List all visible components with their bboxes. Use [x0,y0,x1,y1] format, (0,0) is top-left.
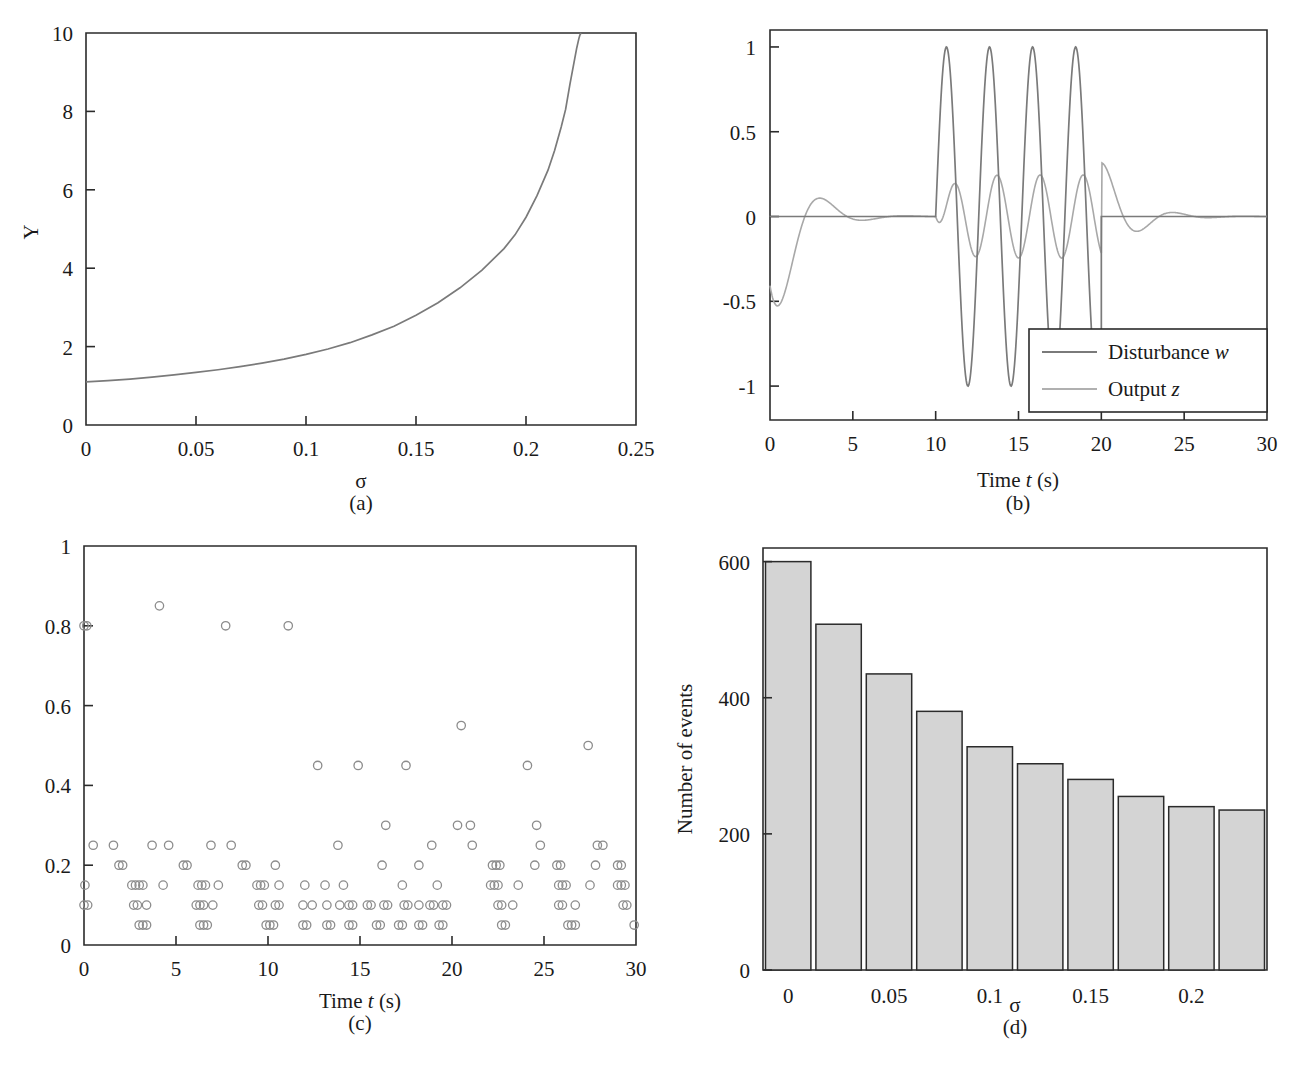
panel-b-legend-label-output: Output z [1108,377,1180,401]
panel-b-x-tick-label: 15 [1008,432,1029,456]
panel-d-x-tick-label: 0.05 [871,984,908,1008]
panel-b-y-tick-label: 0 [746,206,757,230]
bar [1219,810,1264,970]
panel-c-x-tick-label: 0 [79,957,90,981]
scatter-point [584,741,592,749]
panel-a-x-tick-label: 0.1 [293,437,319,461]
scatter-point [532,821,540,829]
panel-b-x-tick-label: 25 [1174,432,1195,456]
panel-c-y-tick-labels: 00.20.40.60.81 [45,535,72,958]
bar [866,674,911,970]
panel-b-legend-label-disturbance: Disturbance w [1108,340,1229,364]
scatter-point [207,841,215,849]
panel-a-x-tick-label: 0.2 [513,437,539,461]
panel-c-chart: 00.20.40.60.81 051015202530 Time t (s) [0,500,660,1020]
panel-c-y-tick-label: 0.6 [45,695,71,719]
panel-a-y-tick-label: 6 [63,179,74,203]
panel-b-legend: Disturbance w Output z [1029,329,1267,412]
panel-c-y-tick-label: 1 [61,535,72,559]
panel-a-x-tick-label: 0 [81,437,92,461]
scatter-point [148,841,156,849]
panel-d-x-tick-label: 0 [783,984,794,1008]
panel-d-y-tick-label: 200 [719,823,751,847]
scatter-point [339,881,347,889]
scatter-point [468,841,476,849]
panel-a-y-tick-labels: 0246810 [52,22,74,438]
panel-b-x-tick-labels: 051015202530 [765,432,1278,456]
scatter-point [402,761,410,769]
bar [1068,779,1113,970]
scatter-point [509,901,517,909]
panel-c-y-tick-label: 0.8 [45,615,71,639]
panel-b-x-tick-label: 5 [848,432,859,456]
panel-b-y-tick-label: 1 [746,36,757,60]
scatter-point [301,881,309,889]
scatter-point [536,841,544,849]
panel-c-y-tick-label: 0 [61,934,72,958]
scatter-point [354,761,362,769]
panel-c-y-tick-label: 0.2 [45,854,71,878]
panel-b-y-tick-labels: -1-0.500.51 [723,36,756,399]
scatter-point [630,921,638,929]
scatter-point [323,901,331,909]
scatter-point [308,901,316,909]
panel-a-x-tick-labels: 00.050.10.150.20.25 [81,437,655,461]
panel-a-y-tick-label: 2 [63,336,74,360]
bar [816,624,861,970]
bar [967,747,1012,970]
panel-c-y-ticks [84,626,93,865]
panel-c-scatter-points [80,602,639,930]
panel-a-x-tick-label: 0.25 [618,437,655,461]
scatter-point [221,622,229,630]
panel-a-y-axis-label: Y [19,224,43,239]
panel-c-x-tick-label: 10 [258,957,279,981]
bar [766,562,811,970]
scatter-point [531,861,539,869]
scatter-point [382,821,390,829]
panel-d-y-tick-labels: 0200400600 [719,551,751,983]
panel-c-x-ticks [176,936,544,945]
panel-a: 0246810 00.050.10.150.20.25 Y σ [0,0,660,500]
panel-b-y-tick-label: -0.5 [723,290,756,314]
panel-d-y-axis-label: Number of events [673,684,697,834]
panel-a-x-tick-label: 0.05 [178,437,215,461]
bar [1169,807,1214,970]
panel-c-caption: (c) [348,1011,371,1035]
panel-c-y-tick-label: 0.4 [45,774,72,798]
panel-a-chart: 0246810 00.050.10.150.20.25 Y σ [0,0,660,500]
scatter-point [433,881,441,889]
panel-b-x-tick-label: 10 [925,432,946,456]
panel-d-x-tick-label: 0.1 [977,984,1003,1008]
panel-d-y-tick-label: 400 [719,687,751,711]
scatter-point [378,861,386,869]
panel-b: -1-0.500.51 051015202530 Disturbance w O… [660,0,1296,500]
scatter-point [599,841,607,849]
panel-c-x-tick-labels: 051015202530 [79,957,647,981]
panel-d-chart: 0200400600 00.050.10.150.2 Number of eve… [660,500,1296,1020]
scatter-point [142,901,150,909]
panel-c: 00.20.40.60.81 051015202530 Time t (s) [0,500,660,1020]
panel-a-y-ticks [86,111,95,346]
panel-d-caption: (d) [1003,1015,1028,1039]
scatter-point [453,821,461,829]
panel-a-y-tick-label: 4 [63,257,74,281]
scatter-point [284,622,292,630]
scatter-point [428,841,436,849]
panel-d-x-tick-label: 0.15 [1072,984,1109,1008]
scatter-point [334,841,342,849]
scatter-point [275,881,283,889]
scatter-point [457,721,465,729]
panel-a-axis-frame [86,33,636,425]
panel-c-caption-wrap: (c) [0,1008,660,1038]
panel-b-y-tick-label: 0.5 [730,121,756,145]
scatter-point [214,881,222,889]
scatter-point [159,881,167,889]
scatter-point [398,881,406,889]
scatter-point [89,841,97,849]
panel-b-x-tick-label: 20 [1091,432,1112,456]
panel-d-y-tick-label: 600 [719,551,751,575]
panel-c-x-tick-label: 20 [442,957,463,981]
bar [1018,764,1063,970]
panel-b-chart: -1-0.500.51 051015202530 Disturbance w O… [660,0,1296,500]
panel-d-x-tick-labels: 00.050.10.150.2 [783,984,1205,1008]
